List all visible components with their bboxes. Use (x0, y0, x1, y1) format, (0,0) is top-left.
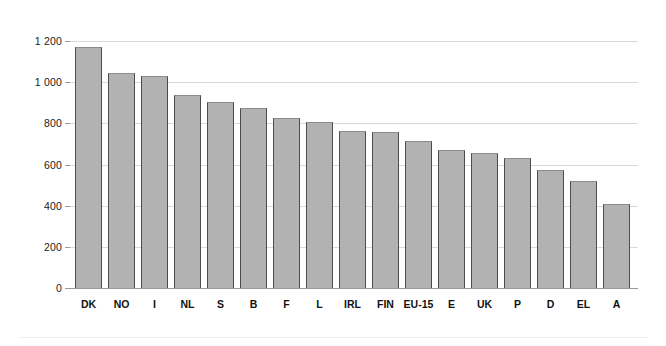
bar (603, 204, 630, 288)
bar (405, 141, 432, 288)
x-tick-label: B (250, 298, 258, 310)
axis-baseline (70, 288, 638, 289)
x-tick-label: UK (477, 298, 492, 310)
bar (570, 181, 597, 288)
x-tick-label: DK (81, 298, 96, 310)
y-tick-label: 1 000 (35, 76, 62, 88)
x-tick-label: I (153, 298, 156, 310)
bar (207, 102, 234, 288)
bar (108, 73, 135, 288)
bar (75, 47, 102, 288)
bar (438, 150, 465, 288)
y-tick-label: 400 (44, 200, 62, 212)
x-tick-label: P (514, 298, 521, 310)
y-tick-label: 0 (56, 282, 62, 294)
x-tick-label: L (316, 298, 322, 310)
bar (174, 95, 201, 288)
x-tick-label: D (547, 298, 555, 310)
bar (273, 118, 300, 288)
bar (141, 76, 168, 288)
y-tick-label: 1 200 (35, 35, 62, 47)
y-tick-label: 200 (44, 241, 62, 253)
x-tick-label: S (217, 298, 224, 310)
bar (240, 108, 267, 288)
bars-layer (70, 41, 638, 288)
x-tick-label: NO (114, 298, 130, 310)
x-tick-label: A (613, 298, 621, 310)
bar (339, 131, 366, 288)
x-tick-label: EL (577, 298, 590, 310)
bar (537, 170, 564, 288)
x-tick-label: E (448, 298, 455, 310)
y-tick-label: 600 (44, 159, 62, 171)
x-tick-label: F (283, 298, 289, 310)
bar (504, 158, 531, 288)
bar-chart-figure: 02004006008001 0001 200 DKNOINLSBFLIRLFI… (0, 0, 666, 346)
footer-divider (18, 337, 648, 338)
y-tick-label: 800 (44, 117, 62, 129)
x-tick-label: EU-15 (404, 298, 434, 310)
bar (372, 132, 399, 288)
x-tick-label: IRL (344, 298, 361, 310)
plot-area (70, 41, 638, 288)
x-tick-label: NL (181, 298, 195, 310)
bar (306, 122, 333, 288)
x-tick-label: FIN (377, 298, 394, 310)
bar (471, 153, 498, 288)
